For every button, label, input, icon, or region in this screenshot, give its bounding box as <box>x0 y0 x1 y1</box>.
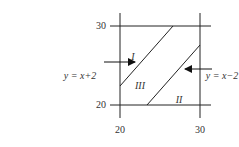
region-label-II: II <box>175 94 183 105</box>
y-tick-30: 30 <box>96 20 106 31</box>
region-label-III: III <box>134 80 146 91</box>
label-y-equals-x-minus-2: y = x−2 <box>205 70 238 81</box>
label-y-equals-x-plus-2: y = x+2 <box>63 70 96 81</box>
line-y-equals-x-minus-2 <box>147 45 200 105</box>
x-tick-30: 30 <box>195 124 205 135</box>
y-tick-20: 20 <box>96 99 106 110</box>
region-diagram: 30 20 20 30 y = x+2 y = x−2 I II III <box>0 0 239 147</box>
x-tick-20: 20 <box>115 124 125 135</box>
line-y-equals-x-plus-2 <box>120 26 173 86</box>
region-label-I: I <box>130 51 135 62</box>
